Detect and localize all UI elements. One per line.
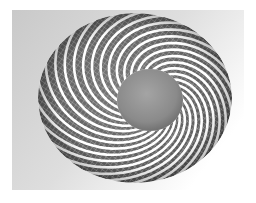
torus-render <box>0 0 256 203</box>
center-sphere <box>117 69 183 131</box>
